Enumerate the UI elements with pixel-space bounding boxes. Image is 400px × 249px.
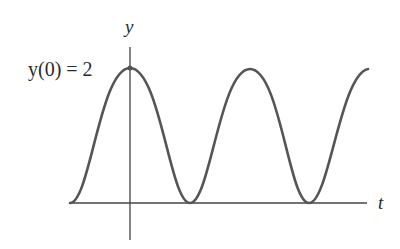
initial-point-marker xyxy=(128,66,133,71)
solution-curve xyxy=(70,68,368,203)
y-axis-label: y xyxy=(123,16,134,37)
solution-curve-figure: y t y(0) = 2 xyxy=(0,0,400,249)
t-axis-label: t xyxy=(378,192,384,213)
initial-condition-label: y(0) = 2 xyxy=(28,58,93,81)
